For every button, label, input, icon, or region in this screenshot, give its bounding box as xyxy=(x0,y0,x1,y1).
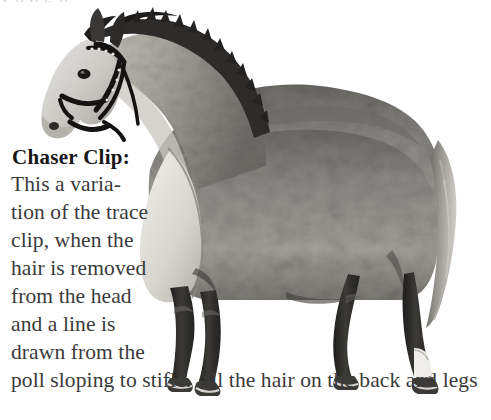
caption-line-4: hair is removed xyxy=(11,258,146,280)
caption-line-1: This a varia- xyxy=(11,174,121,196)
caption-heading: Chaser Clip: xyxy=(12,147,130,168)
caption-line-5: from the head xyxy=(11,286,132,308)
caption-line-7: drawn from the xyxy=(11,342,145,364)
book-page: y p p g p xyxy=(0,0,491,420)
caption-line-6: and a line is xyxy=(11,314,116,336)
caption-line-2: tion of the trace xyxy=(11,202,148,224)
caption-line-8: poll sloping to stifle. All the hair on … xyxy=(11,370,478,392)
caption-line-3: clip, when the xyxy=(11,230,134,252)
